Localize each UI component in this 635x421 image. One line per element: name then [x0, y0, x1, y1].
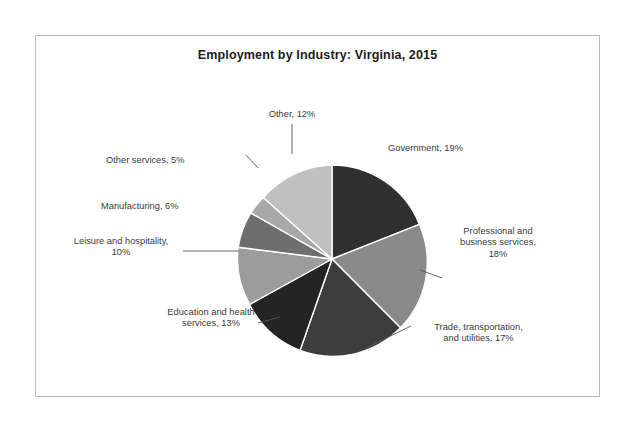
pie-label-other-services: Other services, 5%: [106, 155, 244, 166]
pie-label-trade-transportation-and-utilities: Trade, transportation, and utilities, 17…: [416, 322, 541, 345]
pie-label-education-and-health-services: Education and health services, 13%: [144, 307, 278, 330]
leader-line-other-services: [246, 155, 258, 168]
pie-label-other: Other, 12%: [249, 109, 335, 120]
pie-label-manufacturing: Manufacturing, 6%: [101, 201, 239, 212]
pie-label-professional-and-business-services: Professional and business services, 18%: [444, 226, 552, 260]
pie-label-government: Government, 19%: [388, 143, 463, 154]
pie-label-leisure-and-hospitality: Leisure and hospitality, 10%: [60, 236, 182, 259]
chart-frame: Employment by Industry: Virginia, 2015 G…: [35, 35, 600, 397]
